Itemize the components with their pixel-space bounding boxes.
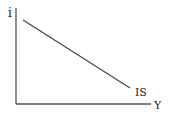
y-axis-label: i [8, 6, 12, 20]
is-curve-diagram: i IS Y [0, 0, 173, 114]
is-curve-label: IS [135, 86, 147, 99]
is-curve [23, 20, 130, 88]
x-axis-label: Y [153, 99, 162, 112]
